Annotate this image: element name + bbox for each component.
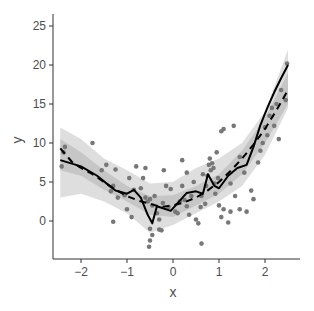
data-point [180, 158, 185, 163]
data-point [270, 106, 275, 111]
data-point [111, 219, 116, 224]
data-point [150, 233, 155, 238]
data-point [251, 197, 256, 202]
data-point [164, 184, 169, 189]
data-point [161, 201, 166, 206]
data-point [216, 176, 221, 181]
data-point [213, 191, 218, 196]
data-point [242, 170, 247, 175]
data-point [260, 141, 265, 146]
data-point [127, 176, 132, 181]
data-point [141, 176, 146, 181]
x-tick-label: 1 [216, 265, 223, 279]
scatter-plot: −2−10120510152025 x y [0, 0, 314, 311]
data-point [194, 217, 199, 222]
x-axis-label: x [170, 284, 177, 300]
data-point [162, 168, 167, 173]
data-point [208, 156, 213, 161]
data-point [231, 124, 236, 129]
chart-container: −2−10120510152025 x y [0, 0, 314, 311]
data-point [143, 166, 148, 171]
data-point [203, 202, 208, 207]
data-point [125, 207, 130, 212]
data-point [233, 194, 238, 199]
data-point [228, 181, 233, 186]
data-point [109, 189, 114, 194]
data-point [116, 195, 121, 200]
data-point [159, 228, 164, 233]
data-point [148, 227, 153, 232]
y-axis-label: y [9, 137, 25, 144]
data-point [129, 215, 134, 220]
data-point [279, 88, 284, 93]
y-tick-label: 25 [33, 19, 47, 33]
data-point [226, 220, 231, 225]
y-tick-label: 5 [39, 175, 46, 189]
data-point [221, 207, 226, 212]
data-point [168, 187, 173, 192]
data-point [258, 149, 263, 154]
data-point [157, 217, 162, 222]
data-point [198, 205, 203, 210]
data-point [104, 163, 109, 168]
data-point [148, 238, 153, 243]
x-tick-label: 2 [262, 265, 269, 279]
data-point [211, 166, 216, 171]
data-point [237, 155, 242, 160]
x-tick-label: −1 [120, 265, 134, 279]
data-point [147, 244, 152, 249]
data-point [139, 186, 144, 191]
data-point [90, 141, 95, 146]
data-point [244, 209, 249, 214]
y-tick-label: 0 [39, 214, 46, 228]
data-point [199, 241, 204, 246]
data-point [217, 203, 222, 208]
data-point [175, 211, 180, 216]
data-point [63, 145, 68, 150]
data-point [214, 150, 219, 155]
data-point [187, 212, 192, 217]
x-tick-label: −2 [74, 265, 88, 279]
data-point [221, 127, 226, 132]
data-point [256, 160, 261, 165]
data-point [143, 195, 148, 200]
data-point [237, 207, 242, 212]
data-point [265, 133, 270, 138]
data-point [272, 124, 277, 129]
y-tick-label: 10 [33, 136, 47, 150]
data-point [277, 137, 282, 142]
data-point [228, 209, 233, 214]
confidence-bands [60, 49, 288, 232]
data-point [191, 180, 196, 185]
data-point [185, 204, 190, 209]
data-point [152, 194, 157, 199]
y-tick-label: 15 [33, 97, 47, 111]
data-point [99, 168, 104, 173]
data-point [180, 184, 185, 189]
data-point [189, 194, 194, 199]
data-point [201, 172, 206, 177]
data-point [210, 161, 215, 166]
data-point [196, 221, 201, 226]
data-point [59, 164, 64, 169]
data-point [185, 170, 190, 175]
data-point [134, 164, 139, 169]
data-point [113, 167, 118, 172]
data-point [148, 197, 153, 202]
x-tick-label: 0 [170, 265, 177, 279]
y-tick-label: 20 [33, 58, 47, 72]
data-point [219, 215, 224, 220]
data-point [249, 188, 254, 193]
